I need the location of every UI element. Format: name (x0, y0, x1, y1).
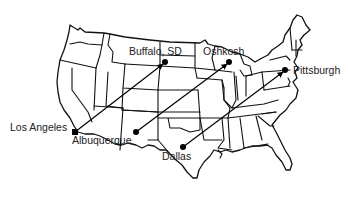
city-dot-buffalo-sd (162, 59, 168, 65)
city-label-albuquerque: Albuquerque (72, 134, 132, 146)
route-dallas-pittsburgh (183, 72, 283, 147)
city-dot-oshkosh (226, 59, 232, 65)
us-states-map: Los Angeles Buffalo, SD Albuquerque Oshk… (0, 0, 349, 203)
city-dot-pittsburgh (282, 67, 288, 73)
city-label-pittsburgh: Pittsburgh (293, 64, 340, 76)
city-label-oshkosh: Oshkosh (203, 45, 245, 57)
city-dot-albuquerque (133, 129, 139, 135)
city-label-buffalo-sd: Buffalo, SD (129, 45, 182, 57)
city-label-los-angeles: Los Angeles (10, 121, 67, 133)
city-label-dallas: Dallas (162, 150, 191, 162)
